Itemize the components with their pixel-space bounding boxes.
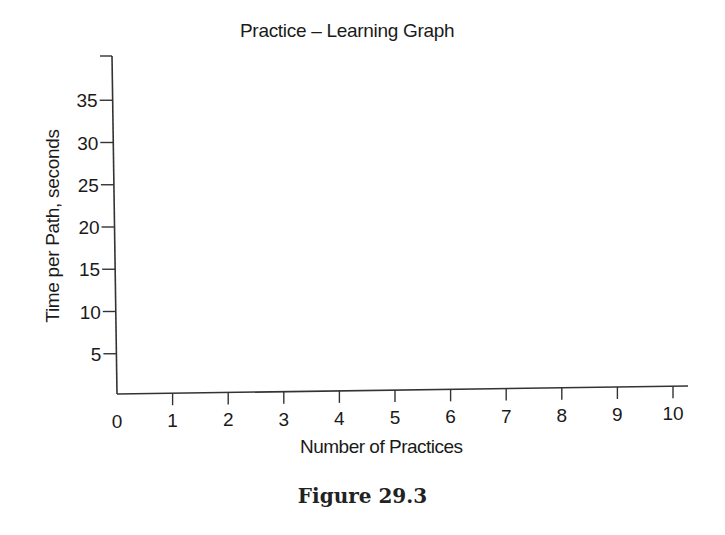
x-axis-line xyxy=(117,386,688,394)
x-axis-label: Number of Practices xyxy=(300,436,463,458)
x-tick-label: 9 xyxy=(612,404,623,425)
y-tick-label: 20 xyxy=(78,217,99,238)
x-tick-label: 5 xyxy=(390,407,401,428)
y-tick-label: 25 xyxy=(78,175,99,196)
y-tick-label: 30 xyxy=(77,133,98,154)
x-tick-label: 2 xyxy=(223,409,234,430)
x-tick-label: 0 xyxy=(112,411,123,432)
y-tick-label: 5 xyxy=(91,344,102,365)
x-tick-label: 1 xyxy=(167,410,178,431)
x-tick-label: 4 xyxy=(334,408,345,429)
y-axis-line xyxy=(112,56,117,394)
y-tick-label: 15 xyxy=(79,259,100,280)
x-tick-label: 6 xyxy=(445,406,456,427)
figure-caption: Figure 29.3 xyxy=(0,484,725,508)
y-axis-label: Time per Path, seconds xyxy=(42,129,64,322)
y-tick-label: 10 xyxy=(80,302,101,323)
x-tick-label: 7 xyxy=(501,406,512,427)
x-tick-label: 3 xyxy=(279,409,290,430)
y-ticks: 5101520253035 xyxy=(77,90,117,365)
y-tick-label: 35 xyxy=(77,90,98,111)
x-tick-label: 10 xyxy=(662,403,683,424)
x-tick-label: 8 xyxy=(557,405,568,426)
